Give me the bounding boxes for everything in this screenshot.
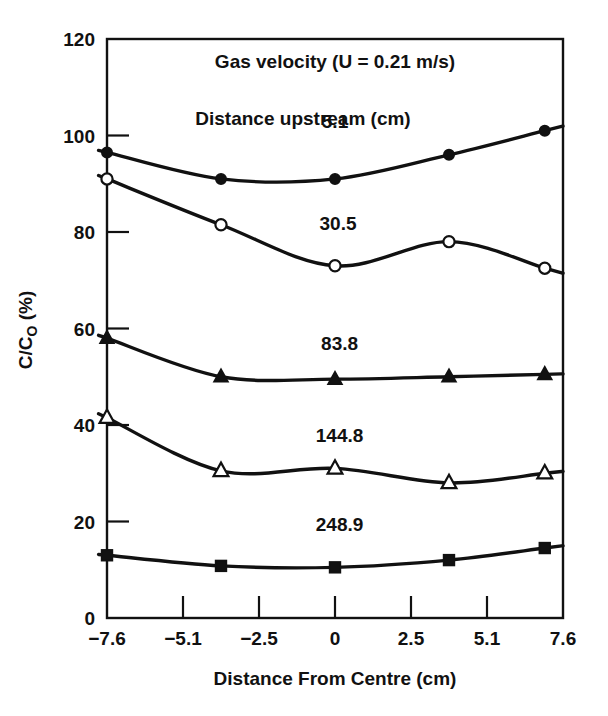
y-tick-label: 0 [84,608,95,629]
y-tick-label: 80 [74,222,95,243]
y-tick-label: 20 [74,512,95,533]
marker-open-circle-30.5-3 [443,236,454,247]
y-axis-title-subscript: O [24,325,40,336]
marker-open-circle-30.5-4 [539,263,550,274]
series-label-144.8: 144.8 [316,425,364,446]
marker-open-circle-30.5-2 [329,260,340,271]
y-tick-label: 40 [74,415,95,436]
series-label-248.9: 248.9 [316,514,364,535]
x-tick-label: 7.6 [550,628,576,649]
marker-filled-circle-5.1-2 [330,174,340,184]
marker-filled-square-248.9-1 [216,560,227,571]
marker-filled-circle-5.1-4 [540,125,550,135]
y-tick-label: 100 [63,126,95,147]
x-tick-label: 5.1 [474,628,501,649]
marker-filled-square-248.9-0 [102,550,113,561]
y-tick-label: 60 [74,319,95,340]
distance-upstream-annotation: Distance upstream (cm) [195,108,410,129]
x-tick-label: 2.5 [398,628,425,649]
x-tick-label: −5.1 [164,628,202,649]
marker-open-circle-30.5-0 [101,173,112,184]
y-tick-label: 120 [63,29,95,50]
x-tick-label: −2.5 [240,628,278,649]
marker-filled-square-248.9-2 [330,562,341,573]
series-label-83.8: 83.8 [321,333,358,354]
chart-title: Gas velocity (U = 0.21 m/s) [215,51,455,72]
marker-open-circle-30.5-1 [215,219,226,230]
y-axis-title-main: C/C [15,336,36,369]
marker-filled-square-248.9-4 [539,543,550,554]
marker-filled-circle-5.1-1 [216,174,226,184]
marker-filled-circle-5.1-0 [102,147,112,157]
series-label-30.5: 30.5 [320,213,357,234]
y-axis-title-unit: (%) [15,291,36,326]
marker-filled-square-248.9-3 [444,555,455,566]
concentration-profile-chart: −7.6−5.1−2.502.55.17.6 020406080100120 5… [0,0,608,716]
x-tick-label: −7.6 [88,628,126,649]
x-tick-label: 0 [330,628,341,649]
marker-filled-circle-5.1-3 [444,150,454,160]
x-axis-title: Distance From Centre (cm) [214,668,457,689]
chart-figure: −7.6−5.1−2.502.55.17.6 020406080100120 5… [0,0,608,716]
